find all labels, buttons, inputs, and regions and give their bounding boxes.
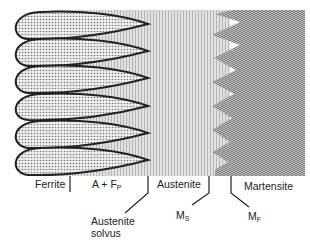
microstructure-diagram	[0, 0, 310, 246]
label-ferrite: Ferrite	[35, 178, 65, 190]
label-ms: MS	[176, 209, 189, 225]
label-a-plus-fp: A + FP	[92, 178, 121, 194]
label-mf: MF	[248, 210, 261, 226]
austenite-solvus-line	[125, 176, 148, 213]
label-austenite: Austenite	[157, 178, 201, 190]
label-martensite: Martensite	[244, 180, 293, 192]
label-austenite-solvus: Austenitesolvus	[91, 215, 135, 239]
